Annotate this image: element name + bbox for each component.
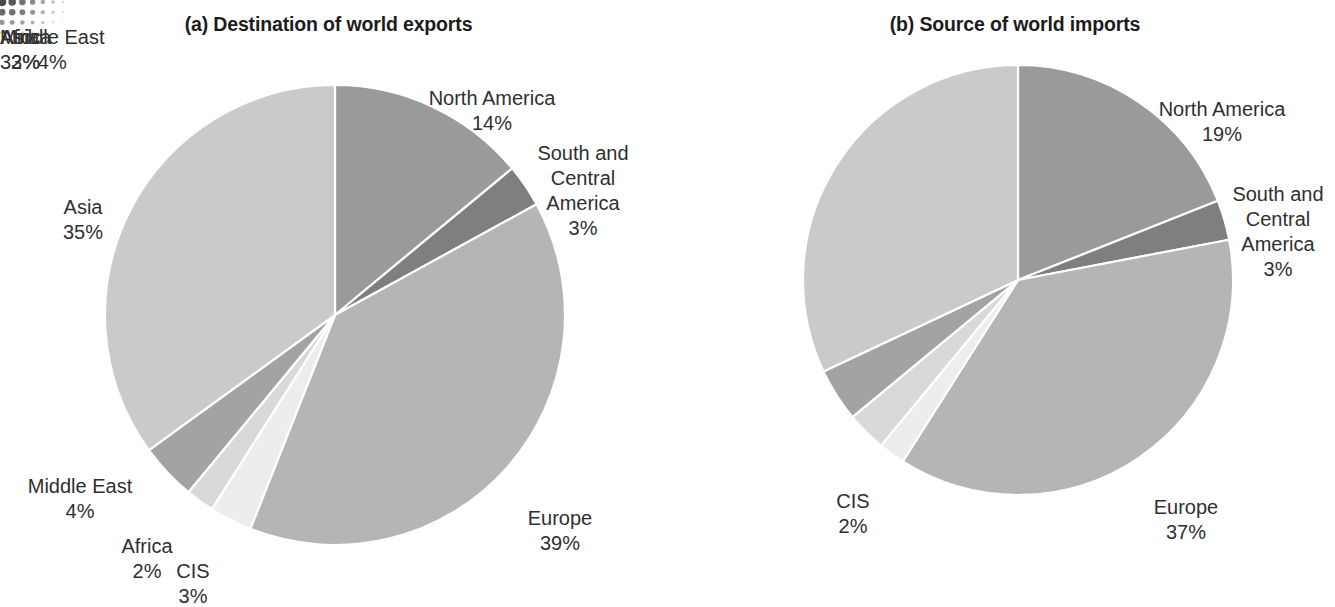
slice-label-text: Europe <box>1154 496 1219 518</box>
slice-label-text: Asia <box>1 26 40 48</box>
slice-label-cis-imports: CIS 2% <box>820 464 886 564</box>
slice-label-text: Middle East <box>28 475 133 497</box>
slice-label-text: South and Central America <box>537 142 628 214</box>
slice-value-text: 39% <box>500 531 620 556</box>
slice-label-europe-exports: Europe 39% <box>500 481 620 581</box>
slice-label-text: North America <box>429 87 556 109</box>
slice-label-south-central-america-exports: South and Central America 3% <box>518 116 648 266</box>
slice-label-text: Europe <box>528 507 593 529</box>
slice-value-text: 2% <box>820 514 886 539</box>
slice-value-text: 4% <box>8 499 152 524</box>
slice-label-middle-east-exports: Middle East 4% <box>8 449 152 549</box>
slice-value-text: 35% <box>40 220 126 245</box>
slice-value-text: 19% <box>1137 122 1307 147</box>
slice-value-text: 32% <box>0 50 40 75</box>
slice-value-text: 3% <box>1222 257 1334 282</box>
slice-label-text: North America <box>1159 98 1286 120</box>
slice-value-text: 2% <box>100 559 194 584</box>
slice-label-asia-exports: Asia 35% <box>40 170 126 270</box>
slice-label-text: CIS <box>836 490 869 512</box>
slice-label-europe-imports: Europe 37% <box>1126 470 1246 570</box>
slice-label-south-central-america-imports: South and Central America 3% <box>1222 157 1334 307</box>
slice-label-text: Asia <box>64 196 103 218</box>
slice-value-text: 37% <box>1126 520 1246 545</box>
slice-label-text: South and Central America <box>1232 183 1323 255</box>
slice-label-asia-imports: Asia 32% <box>0 0 40 100</box>
slice-value-text: 3% <box>518 216 648 241</box>
